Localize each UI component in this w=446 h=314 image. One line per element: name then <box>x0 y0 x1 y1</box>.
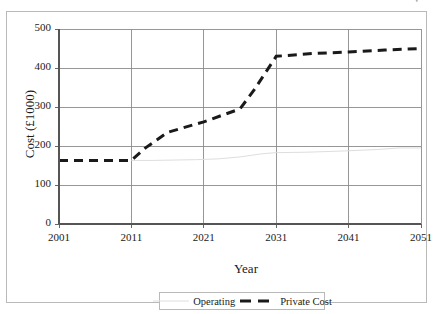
y-tick-label: 0 <box>17 216 51 228</box>
x-axis-title: Year <box>65 261 427 277</box>
x-tick-label: 2031 <box>253 231 299 243</box>
x-tick-label: 2011 <box>108 231 154 243</box>
y-tick-label: 500 <box>17 21 51 33</box>
y-tick-label: 100 <box>17 177 51 189</box>
chart-legend: Operating Private Cost <box>159 292 325 310</box>
caption-remnant: y <box>414 0 420 2</box>
x-tick-label: 2041 <box>326 231 372 243</box>
y-tick-label: 400 <box>17 60 51 72</box>
legend-label-operating: Operating <box>193 296 235 307</box>
y-tick-label: 300 <box>17 99 51 111</box>
thin-gray-line-swatch <box>152 296 190 306</box>
legend-item-private-cost: Private Cost <box>239 296 332 307</box>
thick-black-dashed-swatch <box>239 296 277 306</box>
legend-item-operating: Operating <box>152 296 235 307</box>
x-tick-label: 2021 <box>181 231 227 243</box>
y-tick-label: 200 <box>17 138 51 150</box>
chart-outer-frame: Cost (£1000) Year 0100200300400500 20012… <box>6 11 427 303</box>
x-tick-label: 2051 <box>398 231 444 243</box>
plot-canvas <box>7 12 426 302</box>
series-line-private-cost <box>59 49 421 161</box>
y-axis-title: Cost (£1000) <box>22 54 38 194</box>
figure-container: y Cost (£1000) Year 0100200300400500 200… <box>0 0 446 314</box>
legend-label-private-cost: Private Cost <box>280 296 332 307</box>
x-tick-label: 2001 <box>36 231 82 243</box>
